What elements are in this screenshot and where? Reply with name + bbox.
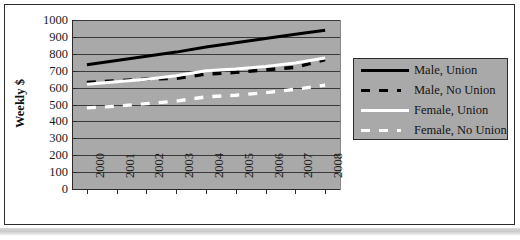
legend-item-label: Female, No Union — [414, 123, 507, 138]
y-axis-tick-mark — [72, 121, 77, 122]
x-axis-tick-label: 2002 — [152, 153, 167, 193]
y-axis-tick-label: 0 — [34, 183, 68, 195]
y-axis-tick-mark — [72, 172, 77, 173]
x-axis-tick-label: 2008 — [331, 153, 346, 193]
x-axis-tick-mark — [206, 190, 207, 194]
y-axis-title: Weekly $ — [13, 66, 28, 142]
x-axis-tick-mark — [176, 190, 177, 194]
x-axis-tick-mark — [146, 190, 147, 194]
x-axis-tick-mark — [236, 190, 237, 194]
y-axis-tick-label: 300 — [34, 132, 68, 144]
chart-figure: Weekly $ 1000900800700600500400300200100… — [0, 0, 520, 240]
y-axis-tick-label: 800 — [34, 48, 68, 60]
y-axis-tick-label: 400 — [34, 115, 68, 127]
page-bottom-shadow — [0, 228, 520, 235]
x-axis-tick-label: 2005 — [242, 153, 257, 193]
x-axis-tick-label: 2000 — [93, 153, 108, 193]
x-axis-tick-label: 2004 — [212, 153, 227, 193]
legend-item[interactable]: Male, Union — [354, 60, 509, 80]
x-axis-tick-mark — [117, 190, 118, 194]
y-axis-tick-mark — [72, 20, 77, 21]
series-line-female-no-union — [87, 85, 325, 108]
legend-swatch-icon — [359, 103, 411, 117]
chart-legend: Male, UnionMale, No UnionFemale, UnionFe… — [353, 58, 508, 140]
legend-swatch-icon — [359, 83, 411, 97]
legend-item-label: Female, Union — [414, 103, 488, 118]
series-line-male-union — [87, 30, 325, 65]
y-axis-tick-label: 700 — [34, 65, 68, 77]
y-axis-tick-label: 200 — [34, 149, 68, 161]
legend-item-label: Male, No Union — [414, 83, 496, 98]
figure-left-margin — [0, 0, 4, 240]
y-axis-tick-mark — [72, 189, 77, 190]
y-axis-tick-mark — [72, 155, 77, 156]
legend-item[interactable]: Female, Union — [354, 100, 509, 120]
series-line-female-union — [87, 58, 325, 84]
x-axis-tick-mark — [266, 190, 267, 194]
y-axis-tick-mark — [72, 138, 77, 139]
y-axis-tick-label: 100 — [34, 166, 68, 178]
x-axis-tick-label: 2007 — [301, 153, 316, 193]
x-axis-tick-mark — [87, 190, 88, 194]
y-axis-tick-label: 1000 — [34, 14, 68, 26]
legend-item[interactable]: Male, No Union — [354, 80, 509, 100]
legend-swatch-icon — [359, 63, 411, 77]
y-axis-tick-mark — [72, 105, 77, 106]
x-axis-tick-label: 2003 — [182, 153, 197, 193]
y-axis-tick-mark — [72, 71, 77, 72]
x-axis-tick-label: 2006 — [272, 153, 287, 193]
legend-swatch-icon — [359, 123, 411, 137]
x-axis-tick-mark — [325, 190, 326, 194]
y-axis-tick-mark — [72, 54, 77, 55]
y-axis-tick-label: 900 — [34, 31, 68, 43]
x-axis-tick-mark — [295, 190, 296, 194]
x-axis-tick-label: 2001 — [123, 153, 138, 193]
y-axis-tick-label: 500 — [34, 99, 68, 111]
y-axis-tick-mark — [72, 88, 77, 89]
y-axis-tick-labels: 10009008007006005004003002001000 — [30, 0, 68, 210]
y-axis-tick-label: 600 — [34, 82, 68, 94]
y-axis-tick-mark — [72, 37, 77, 38]
legend-item-label: Male, Union — [414, 63, 477, 78]
legend-item[interactable]: Female, No Union — [354, 120, 509, 140]
